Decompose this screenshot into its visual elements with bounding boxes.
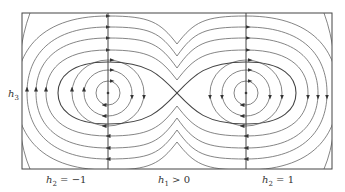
x-label-h2-neg1: h2 = −1	[46, 174, 86, 188]
phase-portrait	[0, 0, 345, 192]
orbits	[16, 13, 338, 170]
plot-frame	[22, 13, 332, 169]
separatrix	[58, 62, 296, 124]
edge-orbit-left	[18, 13, 30, 169]
x-label-h2-pos1: h2 = 1	[262, 174, 294, 188]
flow-arrows	[27, 16, 327, 159]
y-axis-label: h3	[8, 88, 19, 102]
edge-orbit-right	[324, 13, 336, 169]
x-label-h1-positive: h1 > 0	[158, 174, 190, 188]
